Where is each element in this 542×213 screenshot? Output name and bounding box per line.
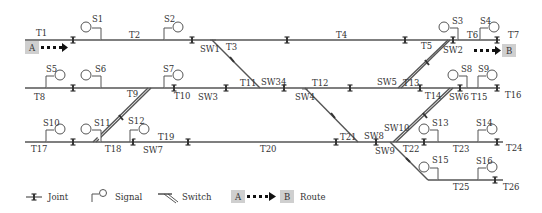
track-label-t25: T25 [453, 182, 470, 192]
track-label-t15: T15 [471, 92, 488, 102]
track-label-t3: T3 [226, 42, 237, 52]
track-label-t18: T18 [105, 144, 122, 154]
switch-label-sw9[interactable]: SW9 [375, 146, 395, 156]
signal-icon [100, 190, 107, 197]
signal-label: S12 [128, 116, 145, 126]
signal-label: S7 [163, 64, 174, 74]
legend-signal-label: Signal [115, 192, 143, 202]
signal-s12[interactable]: S12 [128, 116, 149, 142]
track-label-t4: T4 [336, 30, 347, 40]
track-label-t9: T9 [127, 89, 138, 99]
switch-label-sw6[interactable]: SW6 [449, 92, 469, 102]
legend-route-start: A [234, 192, 242, 202]
route-start-label: A [28, 43, 36, 53]
route-end-b: B [502, 44, 516, 57]
signal-label: S16 [476, 156, 493, 166]
track-label-t24: T24 [506, 143, 523, 153]
track-label-t20: T20 [260, 144, 277, 154]
signal-label: S5 [46, 64, 57, 74]
switch-label-sw4[interactable]: SW4 [295, 92, 315, 102]
track-label-t16: T16 [505, 90, 522, 100]
track-label-t17: T17 [31, 144, 48, 154]
signal-s6[interactable]: S6 [81, 64, 106, 88]
legend: Joint Signal Switch A B Route [26, 190, 325, 204]
track-label-t22: T22 [403, 144, 420, 154]
legend-route-label: Route [300, 192, 325, 202]
switch-label-sw3[interactable]: SW3 [198, 92, 218, 102]
switch-label-sw7[interactable]: SW7 [143, 145, 163, 155]
track-label-t14: T14 [425, 91, 442, 101]
switch-labels: SW1 SW2 SW3 SW34 SW4 SW5 SW6 SW7 SW8 SW9… [143, 44, 469, 156]
legend-switch-label: Switch [182, 192, 212, 202]
route-arrow-b [474, 46, 501, 55]
signal-s14[interactable]: S14 [476, 118, 497, 142]
switch-label-sw5[interactable]: SW5 [377, 77, 397, 87]
signal-label: S4 [480, 16, 491, 26]
track-label-t1: T1 [36, 28, 47, 38]
track-label-t12: T12 [312, 78, 329, 88]
legend-route-end: B [284, 192, 290, 202]
signal-s9[interactable]: S9 [478, 64, 497, 88]
signal-label: S1 [92, 14, 103, 24]
signal-label: S11 [94, 118, 111, 128]
track-label-t13: T13 [403, 78, 420, 88]
switch-label-sw2[interactable]: SW2 [443, 45, 463, 55]
legend-signal: Signal [92, 190, 143, 203]
signal-s5[interactable]: S5 [46, 64, 65, 88]
signal-label: S10 [43, 118, 60, 128]
track-label-t7: T7 [508, 30, 519, 40]
track-label-t10: T10 [174, 91, 191, 101]
signal-s13[interactable]: S13 [419, 118, 449, 142]
legend-route: A B Route [231, 190, 325, 203]
legend-joint-label: Joint [47, 192, 69, 202]
signal-label: S2 [164, 14, 175, 24]
route-arrow-a [41, 43, 68, 52]
switch-label-sw1[interactable]: SW1 [200, 44, 220, 54]
signal-s10[interactable]: S10 [43, 118, 65, 142]
route-end-label: B [506, 46, 512, 56]
route-start-a: A [25, 41, 39, 54]
legend-switch: Switch [158, 192, 212, 203]
track-label-t6: T6 [467, 30, 478, 40]
track-label-t2: T2 [129, 30, 140, 40]
track-label-t11: T11 [240, 78, 257, 88]
signal-label: S14 [476, 118, 493, 128]
railway-layout-diagram: S1 S2 S3 S4 S5 S6 S7 S8 S9 [0, 0, 542, 213]
signal-label: S3 [452, 16, 463, 26]
signal-label: S13 [432, 118, 449, 128]
track-label-t8: T8 [34, 92, 45, 102]
signal-label: S6 [95, 64, 106, 74]
switch-label-sw34[interactable]: SW34 [261, 77, 286, 87]
track-label-t5: T5 [421, 41, 432, 51]
signal-label: S9 [478, 64, 489, 74]
track-label-t23: T23 [453, 144, 470, 154]
track-label-t26: T26 [503, 182, 520, 192]
signal-label: S8 [461, 64, 472, 74]
switch-label-sw8[interactable]: SW8 [364, 131, 384, 141]
signal-s1[interactable]: S1 [81, 14, 103, 40]
signal-s16[interactable]: S16 [476, 156, 497, 180]
legend-joint: Joint [26, 192, 69, 202]
switch-label-sw10[interactable]: SW10 [384, 123, 409, 133]
signal-s2[interactable]: S2 [164, 14, 183, 40]
signal-label: S15 [432, 155, 449, 165]
track-label-t21: T21 [340, 132, 357, 142]
track-label-t19: T19 [158, 132, 175, 142]
